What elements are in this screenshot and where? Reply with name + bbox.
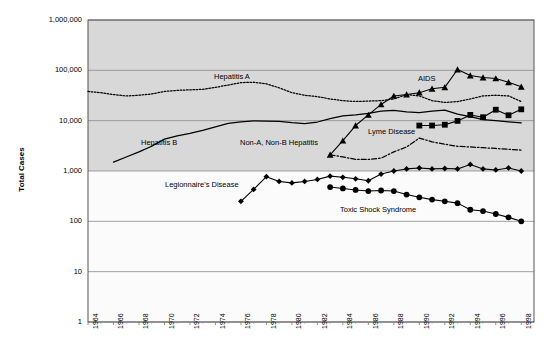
ytick-label-100000: 100,000: [55, 65, 82, 74]
series-marker-lyme-disease-1995: [480, 114, 486, 120]
series-marker-toxic-shock-syndrome-1987: [378, 188, 384, 194]
series-marker-toxic-shock-syndrome-1989: [404, 192, 410, 198]
series-annotation-lyme-disease: Lyme Disease: [368, 127, 415, 136]
series-marker-toxic-shock-syndrome-1992: [442, 198, 448, 204]
chart-container: 1,000,000100,00010,0001,000100101Total C…: [0, 0, 552, 362]
series-annotation-non-a-non-b-hepatitis: Non-A, Non-B Hepatitis: [240, 138, 318, 147]
y-axis-title: Total Cases: [17, 135, 26, 205]
ytick-label-1000: 1,000: [63, 166, 82, 175]
ytick-label-10000: 10,000: [59, 116, 82, 125]
series-marker-lyme-disease-1990: [416, 123, 422, 129]
xtick-label-1990: 1990: [423, 313, 430, 329]
series-marker-toxic-shock-syndrome-1988: [391, 188, 397, 194]
series-marker-toxic-shock-syndrome-1995: [480, 208, 486, 214]
ytick-label-1000000: 1,000,000: [49, 15, 82, 24]
xtick-label-1986: 1986: [372, 313, 379, 329]
xtick-label-1974: 1974: [219, 313, 226, 329]
series-marker-toxic-shock-syndrome-1986: [365, 188, 371, 194]
xtick-label-1998: 1998: [525, 313, 532, 329]
series-marker-toxic-shock-syndrome-1983: [327, 184, 333, 190]
series-marker-toxic-shock-syndrome-1994: [467, 207, 473, 213]
series-marker-toxic-shock-syndrome-1985: [353, 187, 359, 193]
series-marker-toxic-shock-syndrome-1984: [340, 186, 346, 192]
series-marker-toxic-shock-syndrome-1990: [416, 194, 422, 200]
xtick-label-1984: 1984: [346, 313, 353, 329]
ytick-label-100: 100: [69, 216, 82, 225]
series-annotation-aids: AIDS: [418, 74, 436, 83]
ytick-label-1: 1: [78, 317, 82, 326]
xtick-label-1970: 1970: [168, 313, 175, 329]
series-marker-lyme-disease-1993: [455, 118, 461, 124]
series-marker-toxic-shock-syndrome-1997: [506, 214, 512, 220]
plot-background-band-0: [88, 20, 534, 171]
series-annotation-legionnaire-s-disease: Legionnaire's Disease: [165, 180, 239, 189]
plot-background-band-1: [88, 171, 534, 322]
series-marker-lyme-disease-1994: [467, 112, 473, 118]
xtick-label-1968: 1968: [142, 313, 149, 329]
xtick-label-1966: 1966: [117, 313, 124, 329]
series-marker-lyme-disease-1991: [429, 123, 435, 129]
xtick-label-1980: 1980: [295, 313, 302, 329]
series-marker-toxic-shock-syndrome-1991: [429, 197, 435, 203]
xtick-label-1976: 1976: [244, 313, 251, 329]
ytick-label-10: 10: [74, 267, 82, 276]
chart-canvas: [0, 0, 552, 362]
xtick-label-1996: 1996: [499, 313, 506, 329]
series-marker-toxic-shock-syndrome-1996: [493, 211, 499, 217]
xtick-label-1978: 1978: [270, 313, 277, 329]
series-annotation-hepatitis-b: Hepatitis B: [141, 138, 177, 147]
xtick-label-1994: 1994: [474, 313, 481, 329]
xtick-label-1982: 1982: [321, 313, 328, 329]
xtick-label-1964: 1964: [92, 313, 99, 329]
series-annotation-toxic-shock-syndrome: Toxic Shock Syndrome: [340, 205, 416, 214]
series-annotation-hepatitis-a: Hepatitis A: [214, 72, 250, 81]
series-marker-lyme-disease-1992: [442, 122, 448, 128]
xtick-label-1992: 1992: [448, 313, 455, 329]
xtick-label-1972: 1972: [193, 313, 200, 329]
xtick-label-1988: 1988: [397, 313, 404, 329]
series-marker-lyme-disease-1997: [506, 112, 512, 118]
series-marker-toxic-shock-syndrome-1993: [455, 200, 461, 206]
series-marker-toxic-shock-syndrome-1998: [518, 218, 524, 224]
series-marker-lyme-disease-1998: [518, 106, 524, 112]
series-marker-lyme-disease-1996: [493, 107, 499, 113]
